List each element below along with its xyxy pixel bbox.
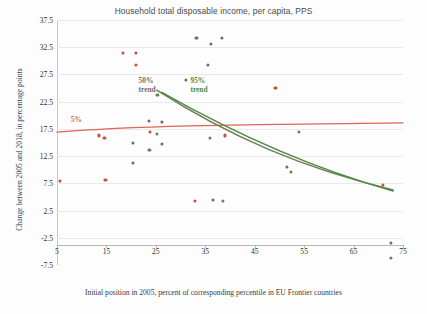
y-tick-label: -2.5 [19,234,53,243]
data-point [160,120,163,123]
x-tick-mark [403,245,404,248]
data-point [121,52,124,55]
trend-label-95: 95% trend [190,76,207,95]
data-point [298,131,301,134]
gridline [57,211,403,212]
data-point [184,78,187,81]
data-point [97,134,100,137]
data-point [210,42,213,45]
data-point [160,142,163,145]
gridline [57,102,403,103]
data-point [195,36,198,39]
chart-title: Household total disposable income, per c… [0,6,427,16]
gridline [57,74,403,75]
data-point [389,242,392,245]
x-tick-label: 15 [103,247,111,256]
x-tick-mark [156,245,157,248]
x-axis-title: Initial position in 2005, percent of cor… [0,288,427,297]
data-point [131,141,134,144]
y-tick-label: 22.5 [19,98,53,107]
data-point [208,137,211,140]
trend-label-5: 5% [71,115,82,125]
gridline [57,238,403,239]
data-point [221,200,224,203]
data-point [58,179,61,182]
data-point [274,86,277,89]
x-tick-label: 5 [55,247,59,256]
y-tick-label: 2.5 [19,207,53,216]
y-tick-label: 7.5 [19,179,53,188]
x-tick-mark [354,245,355,248]
x-tick-mark [304,245,305,248]
data-point [156,93,159,96]
data-point [148,131,151,134]
data-point [134,52,137,55]
y-tick-label: 32.5 [19,43,53,52]
data-point [382,183,385,186]
data-point [223,134,226,137]
data-point [104,178,107,181]
y-axis-ticks: 37.532.527.522.517.512.57.52.5-2.5-7.5 [0,0,53,314]
x-tick-mark [106,245,107,248]
data-point [103,136,106,139]
gridline [57,156,403,157]
data-point [289,170,292,173]
chart-container: Household total disposable income, per c… [0,0,427,314]
y-tick-label: -7.5 [19,261,53,270]
data-point [155,132,158,135]
trend-label-50: 50% trend [139,76,156,95]
y-tick-label: 12.5 [19,152,53,161]
data-point [148,149,151,152]
x-tick-label: 25 [152,247,160,256]
data-point [131,162,134,165]
x-tick-label: 45 [251,247,259,256]
x-tick-mark [205,245,206,248]
data-point [211,198,214,201]
data-point [193,199,196,202]
data-point [285,165,288,168]
y-tick-label: 27.5 [19,70,53,79]
gridline [57,183,403,184]
y-tick-label: 17.5 [19,125,53,134]
data-point [220,36,223,39]
data-point [206,63,209,66]
gridline [57,47,403,48]
x-tick-label: 35 [201,247,209,256]
x-tick-mark [255,245,256,248]
x-tick-label: 75 [399,247,407,256]
gridline [57,129,403,130]
data-point [134,63,137,66]
x-tick-label: 65 [350,247,358,256]
x-axis-line [57,245,403,246]
data-point [389,256,392,259]
data-point [147,120,150,123]
plot-area [57,20,403,245]
x-tick-mark [57,245,58,248]
y-tick-label: 37.5 [19,16,53,25]
gridline [57,20,403,21]
x-tick-label: 55 [300,247,308,256]
